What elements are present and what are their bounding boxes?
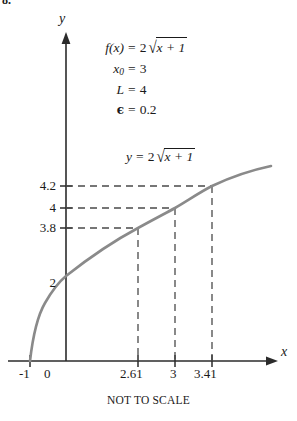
curve-radicand: x + 1 — [164, 148, 196, 165]
y-tick-label-3-8: 3.8 — [12, 220, 56, 236]
x-tick-label-3-41: 3.41 — [194, 366, 217, 382]
y-tick-label-4: 4 — [12, 200, 56, 216]
y-axis-label: y — [59, 11, 65, 27]
epsilon-value: 0.2 — [140, 100, 157, 121]
y-tick-label-4-2: 4.2 — [12, 178, 56, 194]
vertical-guide-lines — [138, 186, 212, 361]
function-lhs: f(x) — [78, 38, 124, 59]
epsilon-lhs: ϵ — [78, 101, 124, 119]
x0-equals: = — [124, 59, 140, 80]
x-tick-label-2-61: 2.61 — [120, 366, 143, 382]
figure-container: 8. — [0, 0, 297, 421]
y-axis — [62, 32, 71, 361]
curve-label-equals: = — [132, 149, 148, 164]
given-row-x0: x0 = 3 — [78, 59, 187, 80]
function-equals: = — [124, 38, 140, 59]
x-tick-label-3: 3 — [170, 366, 177, 382]
radical-group: √x + 1 — [146, 36, 187, 59]
y-tick-label-2: 2 — [12, 275, 56, 291]
epsilon-equals: = — [124, 100, 140, 121]
radicand: x + 1 — [156, 37, 188, 59]
given-row-L: L = 4 — [78, 80, 187, 101]
x0-value: 3 — [140, 59, 147, 80]
given-row-function: f(x) = 2√x + 1 — [78, 36, 187, 59]
x0-lhs: x0 — [78, 59, 124, 80]
figure-caption: NOT TO SCALE — [0, 394, 297, 406]
curve-radical-sign: √ — [156, 147, 164, 166]
curve-label: y=2√x + 1 — [126, 148, 195, 165]
L-value: 4 — [140, 80, 147, 101]
curve-label-radical: √x + 1 — [154, 148, 195, 165]
horizontal-guide-lines — [66, 186, 212, 228]
radical-sign: √ — [148, 35, 156, 61]
x-tick-label-minus-1: -1 — [19, 366, 30, 382]
curve-label-coefficient: 2 — [148, 149, 155, 164]
given-values-block: f(x) = 2√x + 1 x0 = 3 L = 4 ϵ = 0.2 — [78, 36, 187, 121]
x-axis-label: x — [281, 344, 287, 360]
x-axis — [8, 357, 278, 366]
function-rhs: 2√x + 1 — [140, 36, 188, 59]
x-tick-label-0: 0 — [44, 366, 51, 382]
L-equals: = — [124, 80, 140, 101]
given-row-epsilon: ϵ = 0.2 — [78, 100, 187, 121]
function-coefficient: 2 — [140, 40, 147, 55]
L-lhs: L — [78, 80, 124, 101]
